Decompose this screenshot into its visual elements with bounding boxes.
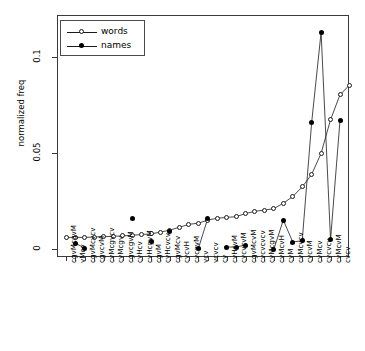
x-tick-mark [94,257,95,261]
y-tick-label: 0.1 [32,41,42,71]
x-tick-mark [66,257,67,261]
x-tick-label: cvMcgvM [267,230,276,263]
x-tick-label: cvcvcvcv [258,230,267,263]
x-tick-mark [246,257,247,261]
data-point-names [319,30,324,35]
x-tick-label: cgvMcvM [249,230,258,263]
data-point-words [215,216,220,221]
data-point-names [281,218,286,223]
x-tick-label: cvMcvcv [296,232,305,263]
x-tick-label: vcv [201,251,210,263]
data-point-words [281,201,286,206]
x-tick-label: cvHcv [135,241,144,263]
x-tick-label: cgvM [154,244,163,263]
legend-label-words: words [101,26,128,36]
x-tick-mark [179,257,180,261]
legend-entry-words: words [61,25,144,39]
x-tick-mark [274,257,275,261]
x-tick-label: cvMcvM [334,234,343,263]
x-tick-mark [189,257,190,261]
x-tick-label: cvMcgvcv [107,228,116,263]
data-point-words [234,214,239,219]
x-tick-label: cvcvcvM [239,232,248,263]
x-tick-label: cvHcvcv [163,233,172,263]
x-tick-mark [227,257,228,261]
x-tick-mark [208,257,209,261]
x-tick-label: cvcgvM [192,236,201,263]
data-point-words [347,83,352,88]
x-tick-label: cvM [286,249,295,263]
x-tick-label: cvMcvH [277,235,286,263]
x-tick-label: cvMcv [315,240,324,263]
x-tick-mark [170,257,171,261]
x-tick-label: cvcv [343,247,352,263]
x-tick-mark [142,257,143,261]
x-tick-label: cvcvH [182,241,191,263]
data-point-words [177,225,182,230]
x-tick-label: cvHcvM [230,235,239,263]
x-tick-mark [312,257,313,261]
x-tick-label: cgvMcgvM [69,225,78,263]
x-tick-label: cgvMcvcv [88,228,97,263]
x-tick-mark [132,257,133,261]
x-tick-mark [293,257,294,261]
x-tick-label: cvHcgvM [145,230,154,263]
data-point-words [64,235,69,240]
legend-label-names: names [101,40,131,50]
data-point-names [290,240,295,245]
chart-legend: words names [60,20,145,56]
open-circle-icon [67,25,97,39]
data-point-words [338,92,343,97]
x-tick-label: vMcv [78,244,87,263]
x-tick-label: vcvcv [211,242,220,263]
x-tick-label: cv [220,255,229,263]
y-axis-title: normalized freq [16,58,26,168]
y-tick-label: 0 [32,233,42,263]
data-point-words [196,221,201,226]
legend-entry-names: names [61,39,144,53]
x-tick-mark [255,257,256,261]
filled-circle-icon [67,39,97,53]
x-tick-mark [217,257,218,261]
data-point-words [319,151,324,156]
x-tick-label: cvMcgv [116,236,125,263]
x-tick-mark [236,257,237,261]
x-tick-mark [283,257,284,261]
x-tick-mark [113,257,114,261]
data-point-names [224,245,229,250]
x-tick-mark [340,257,341,261]
x-tick-mark [104,257,105,261]
x-tick-label: cgvcvM [97,236,106,263]
x-tick-mark [321,257,322,261]
data-point-names [338,118,343,123]
x-tick-mark [123,257,124,261]
data-point-words [262,208,267,213]
x-tick-mark [302,257,303,261]
x-tick-label: cgvcgvM [126,231,135,263]
x-tick-mark [264,257,265,261]
x-tick-mark [331,257,332,261]
x-tick-mark [151,257,152,261]
x-tick-mark [160,257,161,261]
y-tick-label: 0.05 [32,137,42,167]
x-tick-label: cvcvcv [324,238,333,263]
x-tick-mark [85,257,86,261]
x-tick-mark [198,257,199,261]
chart-root: normalized freq 00.050.1 cgvMcgvMvMcvcgv… [0,0,365,351]
x-tick-label: cgvMcv [173,236,182,263]
x-tick-label: cvcvM [305,240,314,263]
x-tick-mark [75,257,76,261]
